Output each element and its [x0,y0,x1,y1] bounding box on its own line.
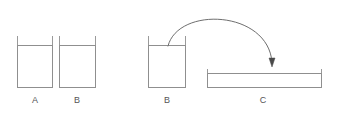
vessel-c-label: C [260,95,267,105]
vessel-a-label: A [32,95,38,105]
vessel-b-left-bottom [60,46,96,88]
diagram-svg: A B B C [0,0,338,117]
vessel-b-left-label: B [74,95,80,105]
transfer-arrow-arc [168,19,272,62]
vessel-a: A [18,36,53,105]
vessel-a-body [18,46,53,88]
vessel-b-source-bottom [149,46,186,88]
vessel-c-bottom [208,74,322,88]
diagram-canvas: A B B C [0,0,338,117]
transfer-arrow-head [269,58,275,67]
vessel-b-left: B [60,36,96,105]
vessel-b-source: B [149,36,186,105]
vessel-c: C [208,69,322,105]
vessel-a-bottom [18,46,53,88]
vessel-b-source-label: B [164,95,170,105]
transfer-arrow [168,19,275,67]
